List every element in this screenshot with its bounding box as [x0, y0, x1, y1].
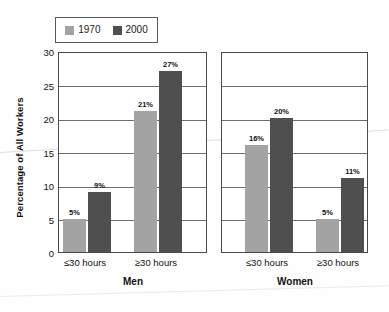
- bar-label-men-le30-1970: 5%: [63, 209, 86, 217]
- y-tick-5: 5: [24, 216, 54, 226]
- x-tick-men-ge30: ≥30 hours: [121, 258, 191, 268]
- y-tick-30: 30: [24, 48, 54, 58]
- legend-label-2000: 2000: [126, 25, 148, 35]
- bar-men-le30-2000: [88, 192, 111, 252]
- y-axis-tick-labels: 30 25 20 15 10 5 0: [24, 52, 54, 253]
- scan-artifact-line-lower: [0, 285, 389, 297]
- plot-area-men: 5% 9% 21% 27%: [59, 53, 206, 252]
- y-tick-25: 25: [24, 82, 54, 92]
- gridline-women-25: [222, 86, 367, 87]
- bar-men-ge30-2000: [159, 71, 182, 252]
- gridline-men-10: [59, 187, 206, 188]
- legend-entry-2000: 2000: [113, 25, 148, 35]
- bar-men-ge30-1970: [134, 111, 157, 252]
- bar-label-women-ge30-1970: 5%: [316, 209, 339, 217]
- chart-legend: 1970 2000: [55, 17, 158, 43]
- bar-label-men-ge30-1970: 21%: [132, 101, 159, 109]
- x-tick-women-le30: ≤30 hours: [232, 258, 302, 268]
- x-tick-men-le30: ≤30 hours: [50, 258, 120, 268]
- bar-women-ge30-2000: [341, 178, 364, 252]
- bar-label-men-ge30-2000: 27%: [157, 61, 184, 69]
- gridline-women-15: [222, 153, 367, 154]
- legend-label-1970: 1970: [78, 25, 100, 35]
- legend-swatch-2000: [113, 26, 122, 35]
- group-title-men: Men: [98, 277, 168, 287]
- bar-label-women-le30-1970: 16%: [243, 135, 270, 143]
- group-title-women: Women: [260, 277, 330, 287]
- legend-swatch-1970: [65, 26, 74, 35]
- bar-women-le30-2000: [270, 118, 293, 252]
- chart-panel-men: 5% 9% 21% 27%: [58, 52, 207, 253]
- bar-women-ge30-1970: [316, 219, 339, 253]
- chart-panel-women: 16% 20% 5% 11%: [221, 52, 368, 253]
- bar-label-men-le30-2000: 9%: [88, 182, 111, 190]
- gridline-men-25: [59, 86, 206, 87]
- bar-label-women-le30-2000: 20%: [268, 108, 295, 116]
- bar-men-le30-1970: [63, 219, 86, 253]
- bar-chart-figure: 1970 2000 Percentage of All Workers 30 2…: [0, 0, 389, 312]
- x-tick-women-ge30: ≥30 hours: [303, 258, 373, 268]
- bar-women-le30-1970: [245, 145, 268, 252]
- y-axis-title: Percentage of All Workers: [14, 78, 25, 238]
- y-tick-10: 10: [24, 182, 54, 192]
- legend-entry-1970: 1970: [65, 25, 100, 35]
- y-tick-20: 20: [24, 115, 54, 125]
- y-tick-15: 15: [24, 149, 54, 159]
- gridline-women-20: [222, 120, 367, 121]
- gridline-men-15: [59, 153, 206, 154]
- plot-area-women: 16% 20% 5% 11%: [222, 53, 367, 252]
- gridline-men-20: [59, 120, 206, 121]
- bar-label-women-ge30-2000: 11%: [339, 168, 366, 176]
